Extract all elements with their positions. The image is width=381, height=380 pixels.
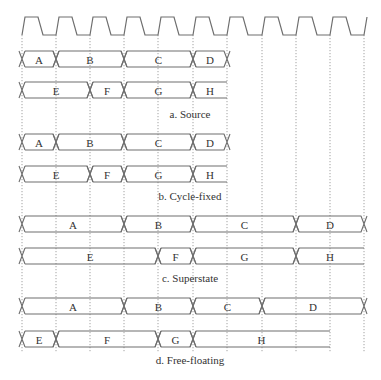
segment-label-f: F	[104, 85, 110, 97]
timing-diagram: a. Source ABCDEFGH b. Cycle-fixed ABCDEF…	[0, 0, 381, 380]
bus-row-2: EFGH	[19, 166, 227, 182]
caption-free-floating: d. Free-floating	[156, 354, 225, 366]
segment-label-a: A	[69, 219, 77, 231]
bus-row-1: ABCD	[19, 134, 230, 150]
segment-label-e: E	[53, 85, 60, 97]
segment-label-g: G	[172, 334, 180, 346]
segment-label-f: F	[104, 334, 110, 346]
clock-signal	[22, 17, 367, 35]
segment-label-e: E	[53, 169, 60, 181]
segment-label-f: F	[172, 251, 178, 263]
segment-label-b: B	[86, 54, 93, 66]
segment-label-d: D	[206, 137, 214, 149]
segment-label-f: F	[104, 169, 110, 181]
segment-label-b: B	[155, 219, 162, 231]
caption-superstate: c. Superstate	[162, 272, 218, 284]
segment-label-b: B	[155, 301, 162, 313]
bus-row-2: EFGH	[19, 82, 227, 98]
segment-label-b: B	[86, 137, 93, 149]
segment-label-c: C	[155, 54, 162, 66]
segment-label-c: C	[224, 301, 231, 313]
segment-label-c: C	[155, 137, 162, 149]
bus-row-2: EFGH	[19, 331, 330, 347]
segment-label-g: G	[241, 251, 249, 263]
segment-label-g: G	[155, 169, 163, 181]
segment-label-e: E	[87, 251, 94, 263]
segment-label-h: H	[326, 251, 334, 263]
segment-label-c: C	[241, 219, 248, 231]
panel-cycle-fixed: b. Cycle-fixed ABCDEFGH	[19, 134, 230, 202]
caption-cycle-fixed: b. Cycle-fixed	[159, 190, 222, 202]
segment-label-h: H	[206, 85, 214, 97]
segment-label-a: A	[69, 301, 77, 313]
panel-superstate: c. Superstate ABCDEFGH	[19, 216, 367, 284]
segment-label-d: D	[309, 301, 317, 313]
segment-label-a: A	[35, 137, 43, 149]
segment-label-d: D	[206, 54, 214, 66]
clock-waveform	[22, 17, 367, 35]
segment-label-e: E	[36, 334, 43, 346]
panel-source: a. Source ABCDEFGH	[19, 51, 230, 120]
segment-label-a: A	[35, 54, 43, 66]
bus-row-2: EFGH	[19, 248, 364, 264]
caption-source: a. Source	[170, 108, 211, 120]
bus-row-1: ABCD	[19, 51, 230, 67]
segment-label-d: D	[326, 219, 334, 231]
segment-label-h: H	[206, 169, 214, 181]
segment-label-g: G	[155, 85, 163, 97]
segment-label-h: H	[258, 334, 266, 346]
